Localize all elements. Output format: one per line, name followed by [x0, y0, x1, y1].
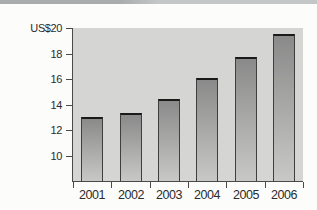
- bar-2003: [158, 99, 180, 181]
- y-axis-tick-label: 10: [0, 150, 62, 162]
- bar-2005: [235, 57, 257, 181]
- x-axis-tick: [150, 182, 151, 188]
- y-axis-tick-label: US$20: [0, 22, 62, 34]
- bar-2001: [81, 117, 103, 181]
- x-axis-label-2006: 2006: [265, 189, 303, 202]
- x-axis-label-2005: 2005: [227, 189, 265, 202]
- y-axis-tick: [66, 28, 72, 29]
- y-axis-line: [72, 28, 73, 182]
- y-axis-tick-label: 18: [0, 48, 62, 60]
- y-axis-tick-label: 12: [0, 124, 62, 136]
- y-axis-tick-label: 16: [0, 73, 62, 85]
- plot-area: [73, 28, 303, 181]
- x-axis-tick: [226, 182, 227, 188]
- x-axis-label-2001: 2001: [73, 189, 111, 202]
- x-axis-tick: [73, 182, 74, 188]
- x-axis-label-2004: 2004: [188, 189, 226, 202]
- y-axis-tick: [66, 105, 72, 106]
- x-axis-tick: [265, 182, 266, 188]
- y-axis-tick: [66, 156, 72, 157]
- x-axis-label-2002: 2002: [112, 189, 150, 202]
- x-axis-tick: [303, 182, 304, 188]
- y-axis-tick: [66, 79, 72, 80]
- bar-2002: [120, 113, 142, 181]
- y-axis-tick: [66, 130, 72, 131]
- x-axis-tick: [111, 182, 112, 188]
- bar-2006: [273, 34, 295, 181]
- y-axis-tick: [66, 54, 72, 55]
- x-axis-tick: [188, 182, 189, 188]
- bar-chart: US$201816141210200120022003200420052006: [0, 0, 317, 210]
- bar-2004: [196, 78, 218, 181]
- x-axis-label-2003: 2003: [150, 189, 188, 202]
- y-axis-tick-label: 14: [0, 99, 62, 111]
